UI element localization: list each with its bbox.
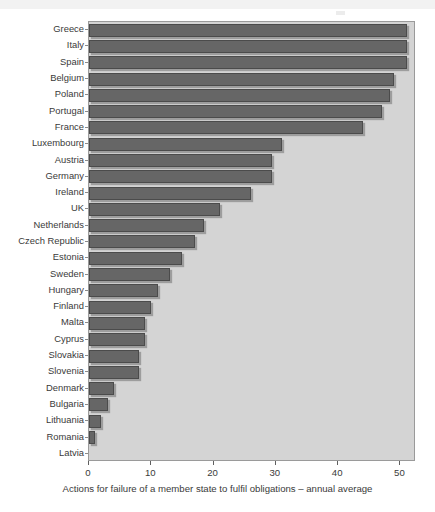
bar — [89, 398, 108, 411]
y-axis-tick — [85, 437, 88, 438]
bar — [89, 187, 251, 200]
y-axis-tick — [85, 257, 88, 258]
x-axis-tick — [275, 461, 276, 465]
x-axis-tick — [399, 461, 400, 465]
x-axis-tick-label: 50 — [394, 467, 405, 478]
y-axis-tick — [85, 78, 88, 79]
y-axis-label-netherlands: Netherlands — [0, 219, 84, 230]
bar — [89, 268, 170, 281]
y-axis-tick — [85, 404, 88, 405]
y-axis-tick — [85, 306, 88, 307]
y-axis-label-latvia: Latvia — [0, 447, 84, 458]
y-axis-tick — [85, 111, 88, 112]
bar — [89, 252, 182, 265]
y-axis-tick — [85, 45, 88, 46]
y-axis-tick — [85, 143, 88, 144]
bar — [89, 301, 151, 314]
y-axis-label-slovenia: Slovenia — [0, 365, 84, 376]
bar — [89, 40, 407, 53]
y-axis-tick — [85, 62, 88, 63]
bar — [89, 89, 390, 102]
bar — [89, 24, 407, 37]
y-axis-label-luxembourg: Luxembourg — [0, 137, 84, 148]
x-axis-tick — [88, 461, 89, 465]
y-axis-tick — [85, 208, 88, 209]
y-axis-tick — [85, 339, 88, 340]
y-axis-label-italy: Italy — [0, 39, 84, 50]
bar — [89, 350, 139, 363]
bar — [89, 154, 272, 167]
y-axis-label-uk: UK — [0, 202, 84, 213]
y-axis-tick — [85, 160, 88, 161]
y-axis-label-spain: Spain — [0, 56, 84, 67]
y-axis-category-labels: GreeceItalySpainBelgiumPolandPortugalFra… — [0, 21, 84, 461]
y-axis-label-finland: Finland — [0, 300, 84, 311]
bar — [89, 317, 145, 330]
bar — [89, 235, 195, 248]
y-axis-label-germany: Germany — [0, 170, 84, 181]
y-axis-tick — [85, 355, 88, 356]
x-axis-tick-label: 30 — [270, 467, 281, 478]
bar — [89, 219, 204, 232]
y-axis-label-poland: Poland — [0, 88, 84, 99]
bar — [89, 170, 272, 183]
x-axis: 01020304050 — [88, 461, 415, 462]
y-axis-tick — [85, 225, 88, 226]
y-axis-label-denmark: Denmark — [0, 382, 84, 393]
y-axis-label-bulgaria: Bulgaria — [0, 398, 84, 409]
y-axis-tick — [85, 453, 88, 454]
scan-artifact-top-band — [0, 0, 435, 9]
y-axis-label-malta: Malta — [0, 316, 84, 327]
y-axis-label-slovakia: Slovakia — [0, 349, 84, 360]
x-axis-tick-label: 10 — [145, 467, 156, 478]
y-axis-label-austria: Austria — [0, 154, 84, 165]
y-axis-tick — [85, 388, 88, 389]
bars-container — [89, 22, 414, 460]
y-axis-tick — [85, 371, 88, 372]
y-axis-tick — [85, 192, 88, 193]
bar — [89, 366, 139, 379]
x-axis-tick-label: 20 — [207, 467, 218, 478]
x-axis-title: Actions for failure of a member state to… — [0, 483, 435, 494]
y-axis-label-czech-republic: Czech Republic — [0, 235, 84, 246]
bar — [89, 415, 101, 428]
bar-chart-figure: GreeceItalySpainBelgiumPolandPortugalFra… — [0, 0, 435, 512]
plot-area — [88, 21, 415, 461]
y-axis-label-greece: Greece — [0, 23, 84, 34]
y-axis-label-cyprus: Cyprus — [0, 333, 84, 344]
bar — [89, 333, 145, 346]
bar — [89, 382, 114, 395]
y-axis-tick — [85, 322, 88, 323]
bar — [89, 105, 382, 118]
y-axis-tick — [85, 29, 88, 30]
y-axis-tick — [85, 420, 88, 421]
y-axis-label-estonia: Estonia — [0, 251, 84, 262]
y-axis-label-ireland: Ireland — [0, 186, 84, 197]
x-axis-tick-label: 0 — [85, 467, 90, 478]
y-axis-label-portugal: Portugal — [0, 105, 84, 116]
y-axis-tick — [85, 290, 88, 291]
bar — [89, 121, 363, 134]
bar — [89, 138, 282, 151]
y-axis-tick — [85, 176, 88, 177]
y-axis-label-france: France — [0, 121, 84, 132]
bar — [89, 203, 220, 216]
y-axis-label-hungary: Hungary — [0, 284, 84, 295]
x-axis-tick-label: 40 — [332, 467, 343, 478]
y-axis-tick — [85, 274, 88, 275]
scan-artifact-mark — [336, 11, 345, 15]
y-axis-tick — [85, 94, 88, 95]
x-axis-tick — [213, 461, 214, 465]
y-axis-label-lithuania: Lithuania — [0, 414, 84, 425]
bar — [89, 73, 394, 86]
y-axis-tick — [85, 127, 88, 128]
y-axis-label-belgium: Belgium — [0, 72, 84, 83]
y-axis-label-sweden: Sweden — [0, 268, 84, 279]
y-axis-tick — [85, 241, 88, 242]
bar — [89, 284, 158, 297]
x-axis-tick — [337, 461, 338, 465]
bar — [89, 431, 95, 444]
bar — [89, 56, 407, 69]
y-axis-label-romania: Romania — [0, 431, 84, 442]
x-axis-tick — [150, 461, 151, 465]
